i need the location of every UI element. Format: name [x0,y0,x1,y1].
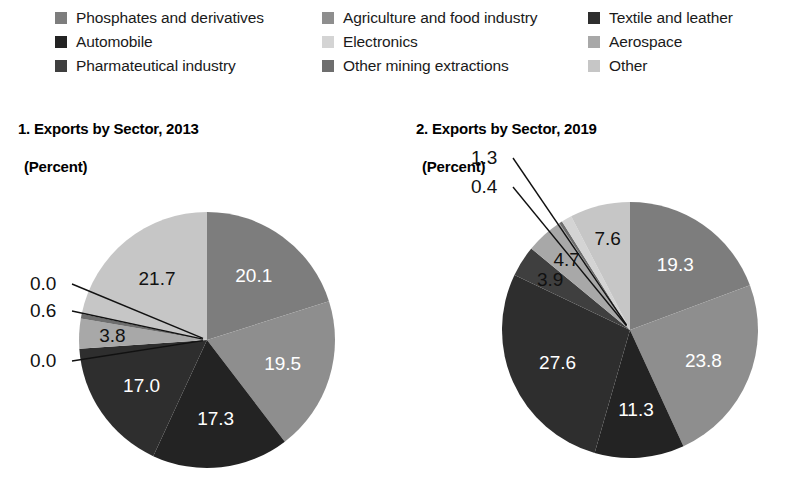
legend-item-label: Electronics [343,30,418,54]
legend-swatch-icon [55,36,67,48]
pie-slice-value-label: 3.9 [537,269,563,290]
pie-callout-label: 0.6 [30,300,56,321]
legend-swatch-icon [322,12,334,24]
legend-column-2: Agriculture and food industry Electronic… [322,6,572,78]
pie-slice-value-label: 17.0 [123,375,160,396]
pie-chart-2019: 19.323.811.327.63.94.77.61.30.4 [396,140,791,500]
legend-item: Automobile [55,30,310,54]
legend-item-label: Textile and leather [609,6,733,30]
legend-item-label: Aerospace [609,30,682,54]
pie-chart-2013-svg: 20.119.517.317.03.821.70.00.60.0 [0,140,396,500]
pie-slice-value-label: 17.3 [197,408,234,429]
pie-callout-label: 0.0 [30,273,56,294]
legend-column-1: Phosphates and derivatives Automobile Ph… [55,6,310,78]
legend-column-3: Textile and leather Aerospace Other [588,6,788,78]
legend-item: Agriculture and food industry [322,6,572,30]
pie-slice-value-label: 7.6 [594,228,620,249]
chart-legend: Phosphates and derivatives Automobile Ph… [0,6,791,84]
exports-by-sector-figure: { "legend": { "columns": [ [ { "label": … [0,0,791,500]
legend-item-label: Pharmateutical industry [76,54,236,78]
pie-slice-value-label: 19.3 [657,254,694,275]
pie-slice-value-label: 21.7 [139,268,176,289]
legend-swatch-icon [55,12,67,24]
legend-swatch-icon [588,12,600,24]
legend-item: Pharmateutical industry [55,54,310,78]
pie-callout-label: 0.4 [471,176,498,197]
legend-item: Other [588,54,788,78]
legend-swatch-icon [588,60,600,72]
pie-slice-value-label: 23.8 [685,350,722,371]
pie-slice-value-label: 11.3 [618,399,654,420]
legend-swatch-icon [588,36,600,48]
legend-item-label: Agriculture and food industry [343,6,537,30]
legend-item-label: Other [609,54,647,78]
legend-swatch-icon [322,36,334,48]
legend-item: Textile and leather [588,6,788,30]
panel-title-1-main: 1. Exports by Sector, 2013 [18,120,199,137]
pie-slice-value-label: 19.5 [264,353,301,374]
legend-item-label: Automobile [76,30,153,54]
legend-item: Phosphates and derivatives [55,6,310,30]
pie-slice-value-label: 20.1 [235,265,272,286]
legend-item: Other mining extractions [322,54,572,78]
legend-swatch-icon [322,60,334,72]
legend-item: Aerospace [588,30,788,54]
legend-item-label: Phosphates and derivatives [76,6,264,30]
pie-slice-value-label: 27.6 [539,352,576,373]
panel-title-2-main: 2. Exports by Sector, 2019 [416,120,597,137]
legend-item: Electronics [322,30,572,54]
legend-item-label: Other mining extractions [343,54,509,78]
pie-callout-label: 0.0 [30,350,56,371]
pie-callout-label: 1.3 [471,147,497,168]
pie-slice-value-label: 4.7 [553,249,579,270]
pie-chart-2013: 20.119.517.317.03.821.70.00.60.0 [0,140,396,500]
pie-slice-value-label: 3.8 [99,325,125,346]
legend-swatch-icon [55,60,67,72]
pie-chart-2019-svg: 19.323.811.327.63.94.77.61.30.4 [396,140,791,500]
